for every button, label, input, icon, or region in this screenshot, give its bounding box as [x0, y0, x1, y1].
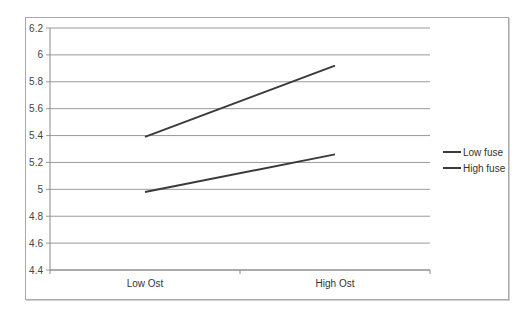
x-tick-label: Low Ost: [127, 278, 164, 289]
legend-label: Low fuse: [463, 147, 503, 158]
y-tick-label: 6.2: [29, 23, 43, 34]
line-chart: 6.265.85.65.45.254.84.64.4 Low OstHigh O…: [0, 0, 532, 317]
y-tick-label: 4.8: [29, 211, 43, 222]
y-tick-label: 5.4: [29, 130, 43, 141]
series-line-low-fuse: [145, 154, 335, 192]
series-line-high-fuse: [145, 66, 335, 137]
gridlines: [46, 28, 430, 270]
legend: Low fuseHigh fuse: [443, 147, 506, 174]
y-tick-label: 6: [37, 49, 43, 60]
legend-label: High fuse: [463, 163, 506, 174]
y-tick-label: 4.6: [29, 238, 43, 249]
y-tick-label: 5.8: [29, 76, 43, 87]
y-axis: 6.265.85.65.45.254.84.64.4: [29, 23, 50, 276]
x-tick-label: High Ost: [316, 278, 355, 289]
y-tick-label: 4.4: [29, 265, 43, 276]
y-tick-label: 5: [37, 184, 43, 195]
series-lines: [145, 66, 335, 192]
x-axis: Low OstHigh Ost: [50, 270, 430, 289]
y-tick-label: 5.2: [29, 157, 43, 168]
y-tick-label: 5.6: [29, 103, 43, 114]
